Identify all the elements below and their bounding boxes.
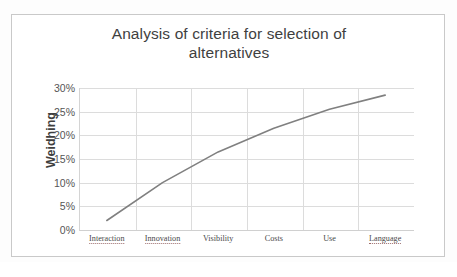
x-axis-tick-label: Innovation [145,234,180,244]
y-axis-tick-label: 0% [41,224,75,236]
chart-title-line-2: alternatives [42,43,416,62]
series-line-weidhing [79,88,413,230]
chart-title: Analysis of criteria for selection of al… [42,24,416,62]
x-axis-tick-label: Use [323,234,336,243]
y-axis-tick-label: 20% [41,129,75,141]
x-axis-tick-label: Language [369,234,401,244]
x-axis-tick-label: Interaction [89,234,124,244]
y-axis-tick-label: 25% [41,106,75,118]
x-axis-tick-label: Visibility [203,234,233,243]
document-page: Analysis of criteria for selection of al… [0,0,457,277]
y-axis-tick-labels: 0%5%10%15%20%25%30% [37,88,75,230]
x-axis-tick-label: Costs [265,234,283,243]
x-axis-tick-labels: InteractionInnovationVisibilityCostsUseL… [79,234,413,252]
y-axis-tick-label: 10% [41,177,75,189]
chart-title-line-1: Analysis of criteria for selection of [42,24,416,43]
y-axis-tick-label: 5% [41,200,75,212]
y-axis-tick-label: 15% [41,153,75,165]
chart-frame: Analysis of criteria for selection of al… [11,14,445,257]
y-axis-tick-label: 30% [41,82,75,94]
page-margin [0,262,457,277]
